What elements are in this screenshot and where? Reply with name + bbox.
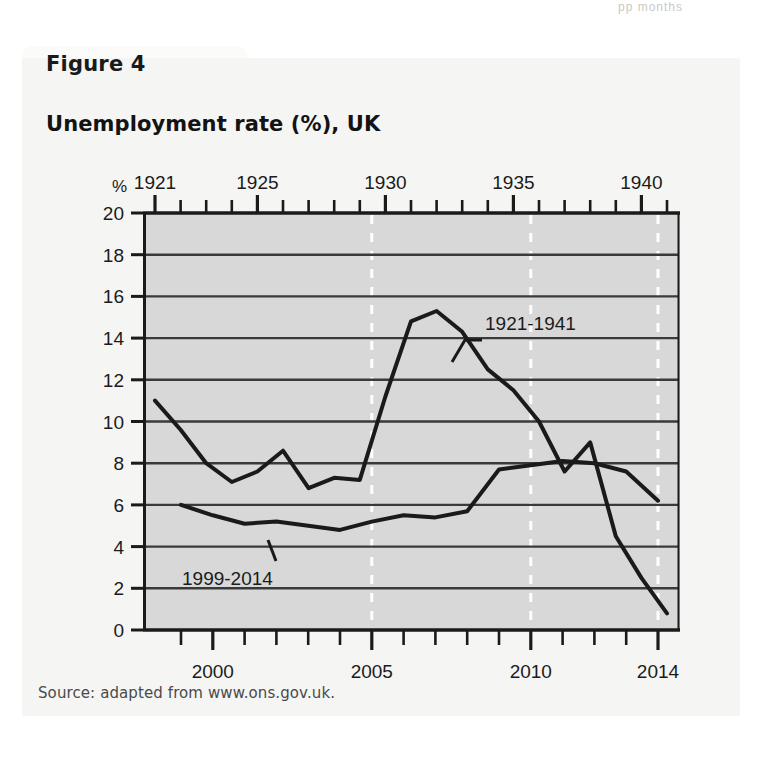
svg-text:2005: 2005	[351, 661, 393, 682]
svg-text:16: 16	[103, 286, 124, 307]
svg-text:2014: 2014	[637, 661, 680, 682]
unemployment-line-chart: 19211925193019351940 2000200520102014 02…	[0, 0, 763, 764]
svg-text:6: 6	[113, 495, 124, 516]
svg-text:18: 18	[103, 245, 124, 266]
svg-text:2000: 2000	[192, 661, 234, 682]
top-axis-ticks	[155, 195, 667, 213]
svg-text:10: 10	[103, 412, 124, 433]
bottom-axis-ticks	[181, 630, 658, 650]
svg-text:0: 0	[113, 620, 124, 641]
top-axis-tick-labels: 19211925193019351940	[134, 172, 663, 193]
series-annotation-1921-1941: 1921-1941	[485, 313, 576, 334]
svg-text:2010: 2010	[510, 661, 552, 682]
y-axis-ticks	[131, 213, 143, 630]
svg-text:1921: 1921	[134, 172, 176, 193]
svg-text:1940: 1940	[620, 172, 662, 193]
bottom-axis-tick-labels: 2000200520102014	[192, 661, 680, 682]
svg-text:12: 12	[103, 370, 124, 391]
svg-text:4: 4	[113, 537, 124, 558]
svg-text:1930: 1930	[364, 172, 406, 193]
y-axis-unit-label: %	[112, 177, 127, 196]
svg-text:8: 8	[113, 453, 124, 474]
svg-text:20: 20	[103, 203, 124, 224]
svg-text:14: 14	[103, 328, 125, 349]
y-axis-tick-labels: 02468101214161820	[103, 203, 125, 641]
svg-text:1925: 1925	[236, 172, 278, 193]
svg-text:2: 2	[113, 578, 124, 599]
svg-text:1935: 1935	[492, 172, 534, 193]
series-annotation-1999-2014: 1999-2014	[182, 568, 273, 589]
